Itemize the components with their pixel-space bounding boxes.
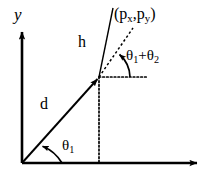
theta1-arc [43, 146, 63, 163]
vector-d-label: d [40, 96, 48, 112]
segment-h-label: h [78, 34, 86, 50]
theta1-sub: 1 [69, 144, 74, 155]
vector-geometry-diagram: y d h (px,py) θ1 θ1+θ2 [0, 0, 210, 181]
point-coordinates-label: (px,py) [114, 6, 156, 24]
theta1-label: θ1 [62, 138, 74, 155]
y-axis-label: y [14, 6, 22, 23]
theta-sum-label: θ1+θ2 [126, 48, 159, 65]
theta-sum-second-base: θ [147, 47, 154, 63]
vector-d-line [22, 79, 98, 163]
diagram-canvas [0, 0, 210, 181]
coord-p-y-base: p [137, 5, 145, 22]
theta-sum-second-sub: 2 [154, 54, 159, 65]
theta-sum-plus: + [138, 47, 146, 63]
segment-h-line [99, 8, 113, 77]
coord-close-paren: ) [150, 5, 155, 22]
